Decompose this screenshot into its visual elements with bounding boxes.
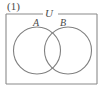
- set-a-label: A: [33, 18, 39, 28]
- universe-label: U: [45, 8, 53, 19]
- set-b-label: B: [60, 18, 66, 28]
- set-a-circle: [14, 27, 61, 74]
- universe-rectangle: [6, 14, 97, 84]
- set-b-circle: [45, 27, 92, 74]
- venn-diagram-graphic: [0, 0, 106, 93]
- venn-diagram-figure: (1) U A B: [0, 0, 106, 93]
